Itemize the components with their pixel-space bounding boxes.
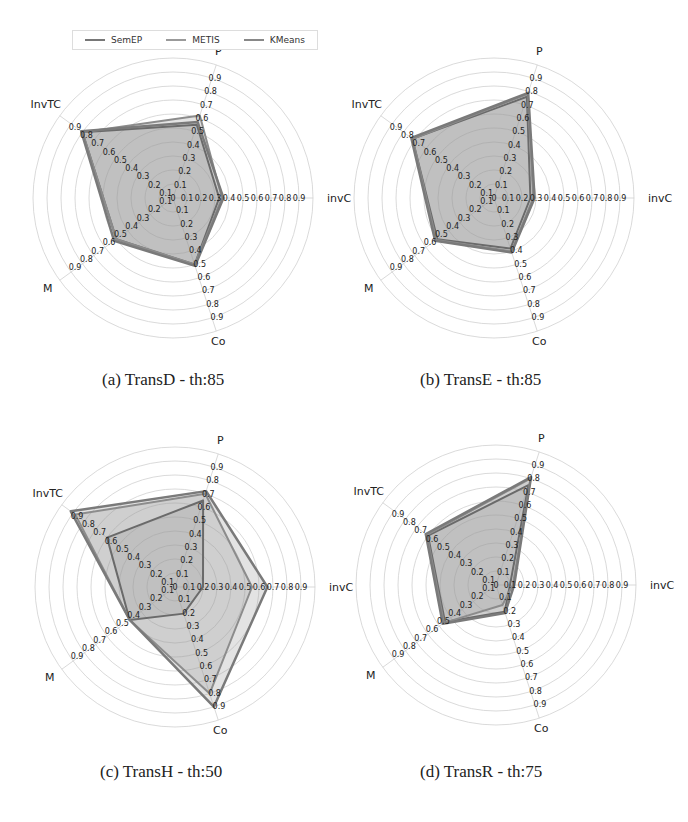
tick-label: 0.4: [127, 611, 140, 620]
tick-label: 0.2: [178, 167, 191, 176]
axis-label-m: M: [366, 669, 376, 682]
tick-label: 0.5: [191, 127, 204, 136]
tick-label: 0.8: [279, 194, 292, 203]
axis-label-invtc: InvTC: [353, 485, 384, 498]
legend-line-icon: [166, 39, 186, 41]
caption-d: (d) TransR - th:75: [420, 762, 542, 782]
legend-item-semep: SemEP: [85, 35, 142, 45]
tick-label: 0.9: [534, 700, 547, 709]
tick-label: 0.1: [497, 206, 510, 215]
tick-label: 0.2: [148, 205, 161, 214]
caption-c: (c) TransH - th:50: [100, 762, 222, 782]
tick-label: 0.8: [403, 518, 416, 527]
tick-label: 0.8: [206, 300, 219, 309]
tick-label: 0.7: [204, 675, 217, 684]
tick-label: 0.3: [185, 543, 198, 552]
tick-label: 0.6: [200, 662, 213, 671]
axis-label-co: Co: [532, 335, 547, 348]
legend: SemEP METIS KMeans: [72, 30, 318, 50]
axis-label-p: P: [217, 434, 224, 447]
tick-label: 0.7: [91, 247, 104, 256]
tick-label: 0.7: [202, 286, 215, 295]
tick-label: 0.9: [392, 510, 405, 519]
tick-label: 0.8: [80, 255, 93, 264]
tick-label: 0.2: [471, 592, 484, 601]
axis-label-co: Co: [213, 724, 228, 737]
tick-label: 0.3: [185, 233, 198, 242]
tick-label: 0.1: [174, 181, 187, 190]
tick-label: 0.7: [523, 488, 536, 497]
tick-label: 0.6: [251, 194, 264, 203]
tick-label: 0.9: [295, 583, 308, 592]
tick-label: 0.5: [435, 156, 448, 165]
tick-label: 0.3: [137, 172, 150, 181]
tick-label: 0.9: [390, 123, 403, 132]
tick-label: 0.8: [600, 194, 613, 203]
tick-label: 0.6: [517, 114, 530, 123]
axis-label-invc: invC: [650, 579, 675, 592]
tick-label: 0.2: [195, 194, 208, 203]
axis-label-co: Co: [211, 335, 226, 348]
tick-label: 0.5: [239, 583, 252, 592]
tick-label: 0.2: [182, 609, 195, 618]
tick-label: 0.7: [588, 581, 601, 590]
tick-label: 0.4: [125, 222, 138, 231]
tick-label: 0.6: [103, 238, 116, 247]
tick-label: 0.6: [424, 148, 437, 157]
tick-label: 0.4: [448, 551, 461, 560]
tick-label: 0.9: [532, 461, 545, 470]
axis-label-m: M: [45, 671, 55, 684]
tick-label: 0.3: [183, 154, 196, 163]
axis-label-p: P: [538, 432, 545, 445]
tick-label: 0.7: [414, 634, 427, 643]
tick-label: 0.3: [506, 541, 519, 550]
tick-label: 0.7: [93, 528, 106, 537]
tick-label: 0.5: [114, 230, 127, 239]
tick-label: 0.7: [200, 101, 213, 110]
tick-label: 0.6: [105, 537, 118, 546]
tick-label: 0.4: [544, 194, 557, 203]
tick-label: 0.3: [211, 583, 224, 592]
tick-label: 0.6: [426, 625, 439, 634]
tick-label: 0.2: [469, 181, 482, 190]
tick-label: 0.4: [446, 164, 459, 173]
tick-label: 0.9: [390, 263, 403, 272]
tick-label: 0.2: [471, 568, 484, 577]
tick-label: 0.3: [504, 154, 517, 163]
tick-label: 0.7: [91, 139, 104, 148]
radar-charts: 00.10.20.30.40.50.60.70.80.90.10.20.30.4…: [0, 0, 688, 822]
tick-label: 0.1: [499, 593, 512, 602]
tick-label: 0.2: [516, 194, 529, 203]
tick-label: 0.8: [401, 131, 414, 140]
tick-label: 0.9: [392, 650, 405, 659]
tick-label: 0.3: [530, 194, 543, 203]
tick-label: 0.4: [191, 635, 204, 644]
tick-label: 0.2: [180, 556, 193, 565]
legend-item-metis: METIS: [166, 35, 219, 45]
tick-label: 0.6: [198, 273, 211, 282]
axis-label-m: M: [364, 282, 374, 295]
tick-label: 0.8: [527, 300, 540, 309]
tick-label: 0.8: [206, 476, 219, 485]
tick-label: 0.5: [116, 619, 129, 628]
tick-label: 0.9: [213, 702, 226, 711]
tick-label: 0.1: [482, 584, 495, 593]
tick-label: 0.6: [519, 273, 532, 282]
tick-label: 0.5: [516, 647, 529, 656]
tick-label: 0.9: [69, 263, 82, 272]
tick-label: 0.2: [501, 220, 514, 229]
tick-label: 0.5: [195, 649, 208, 658]
tick-label: 0.9: [614, 194, 627, 203]
tick-label: 0.9: [616, 581, 629, 590]
tick-label: 0.5: [193, 516, 206, 525]
tick-label: 0.3: [460, 601, 473, 610]
legend-label: KMeans: [270, 35, 305, 45]
tick-label: 0.8: [602, 581, 615, 590]
tick-label: 0.8: [82, 520, 95, 529]
tick-label: 0.5: [193, 260, 206, 269]
tick-label: 0.4: [546, 581, 559, 590]
tick-label: 0.8: [401, 255, 414, 264]
tick-label: 0.6: [426, 535, 439, 544]
axis-label-invtc: InvTC: [351, 98, 382, 111]
tick-label: 0.8: [281, 583, 294, 592]
